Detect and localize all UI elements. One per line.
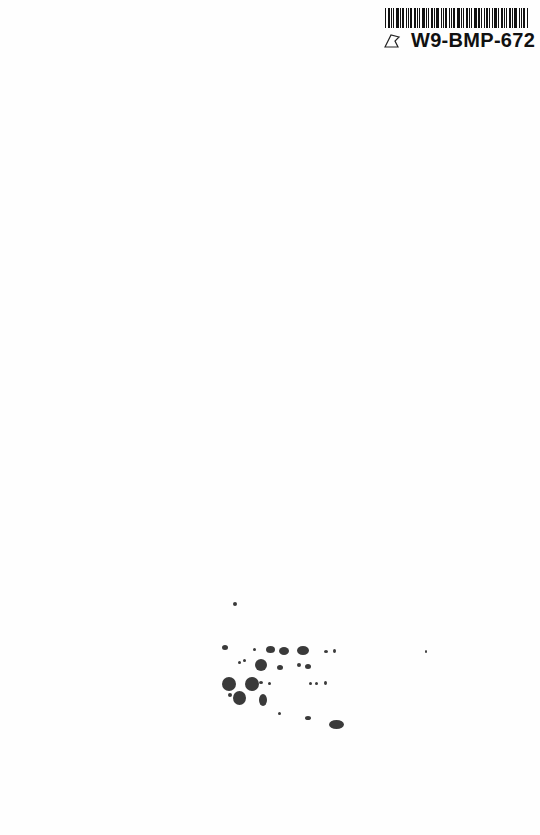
barcode-bar	[443, 8, 444, 28]
barcode-bar	[393, 8, 394, 28]
barcode-bar	[519, 8, 520, 28]
ink-speck	[228, 693, 232, 697]
barcode-bar	[514, 8, 517, 28]
barcode-bar	[461, 8, 462, 28]
barcode-bar	[478, 8, 480, 28]
ink-speck	[259, 694, 267, 706]
barcode	[385, 8, 535, 28]
ink-speck	[233, 602, 237, 606]
barcode-bar	[471, 8, 472, 28]
barcode-bar	[463, 8, 464, 28]
ink-speck	[266, 646, 275, 653]
barcode-bar	[445, 8, 447, 28]
barcode-bar	[489, 8, 490, 28]
ink-speck	[243, 659, 246, 662]
ink-speck	[315, 682, 318, 685]
barcode-bar	[419, 8, 420, 28]
ink-speck	[333, 649, 336, 653]
barcode-bar	[436, 8, 439, 28]
ink-speck	[297, 663, 301, 667]
ink-speck	[233, 691, 246, 705]
barcode-code-text: W9-BMP-672	[411, 29, 535, 52]
barcode-bar	[509, 8, 511, 28]
barcode-bar	[426, 8, 427, 28]
barcode-bar	[396, 8, 399, 28]
barcode-bar	[391, 8, 392, 28]
ink-speck	[305, 664, 311, 669]
barcode-bar	[431, 8, 433, 28]
ink-speck	[305, 716, 311, 720]
scanned-page: W9-BMP-672	[0, 0, 540, 835]
ink-speck	[324, 650, 328, 653]
barcode-bar	[434, 8, 435, 28]
leaf-outline-icon	[383, 32, 401, 50]
barcode-bar	[406, 8, 407, 28]
ink-speck	[222, 677, 236, 691]
ink-speck	[279, 647, 289, 655]
ink-speck	[259, 681, 263, 684]
barcode-bar	[422, 8, 425, 28]
barcode-bar	[486, 8, 488, 28]
ink-speck	[255, 659, 267, 671]
barcode-bar	[492, 8, 493, 28]
ink-speck	[297, 646, 309, 655]
ink-speck	[245, 677, 259, 691]
barcode-bar	[428, 8, 429, 28]
barcode-bar	[484, 8, 485, 28]
barcode-bar	[469, 8, 470, 28]
barcode-bar	[408, 8, 409, 28]
barcode-bar	[527, 8, 528, 28]
barcode-bar	[481, 8, 482, 28]
ink-speck	[324, 681, 327, 685]
barcode-bar	[453, 8, 455, 28]
barcode-bar	[504, 8, 505, 28]
barcode-bar	[457, 8, 460, 28]
barcode-bar	[417, 8, 418, 28]
barcode-label: W9-BMP-672	[383, 29, 535, 52]
barcode-bar	[466, 8, 468, 28]
barcode-bar	[521, 8, 522, 28]
barcode-bar	[498, 8, 499, 28]
barcode-bar	[506, 8, 507, 28]
barcode-bar	[388, 8, 390, 28]
ink-speck	[278, 712, 281, 715]
ink-speck	[268, 682, 271, 685]
barcode-bar	[410, 8, 412, 28]
barcode-bar	[414, 8, 416, 28]
ink-speck	[277, 665, 283, 670]
barcode-bar	[385, 8, 386, 28]
barcode-bar	[449, 8, 450, 28]
ink-speck	[238, 661, 241, 664]
barcode-bar	[512, 8, 513, 28]
barcode-bar	[501, 8, 503, 28]
barcode-bar	[474, 8, 477, 28]
barcode-bar	[402, 8, 404, 28]
ink-speck	[222, 645, 228, 650]
ink-speck	[253, 648, 256, 651]
barcode-bar	[494, 8, 497, 28]
barcode-bar	[451, 8, 452, 28]
barcode-bar	[441, 8, 442, 28]
ink-speck	[309, 682, 312, 685]
barcode-bar	[400, 8, 401, 28]
ink-speck	[329, 720, 344, 729]
barcode-bar	[523, 8, 525, 28]
ink-speck	[425, 650, 427, 653]
